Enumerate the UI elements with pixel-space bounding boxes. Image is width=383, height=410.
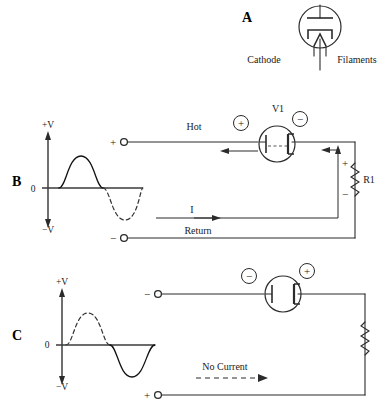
waveform-c-plus-v-label: +V [56,277,68,287]
no-current-label-c: No Current [202,361,247,372]
section-c-group: C +V −V 0 − + [12,264,369,402]
section-b-group: B +V −V 0 + − Hot [12,103,375,244]
circuit-b: + − Hot Return V1 + [110,103,375,244]
resistor-ref-b: R1 [363,174,375,185]
electron-flow-arrow-b [220,148,229,154]
input-bottom-sign-b: − [110,232,116,244]
waveform-b-y-axis-arrow-up [45,131,51,140]
input-terminal-bottom-b[interactable] [121,235,128,242]
waveform-b-plus-v-label: +V [42,120,54,130]
waveform-b-positive-half [59,156,103,188]
waveform-c-zero-label: 0 [45,340,50,350]
waveform-c-y-axis-arrow-up [59,288,65,297]
waveform-b-zero-label: 0 [31,184,36,194]
waveform-c-negative-half [110,345,155,377]
tube-left-sign-c: − [246,270,252,282]
current-i-arrow-b [212,215,221,221]
tube-left-sign-b: + [238,117,244,129]
resistor-top-sign-b: + [342,157,348,169]
input-top-sign-c: − [144,288,150,300]
tube-envelope-b-icon [259,126,295,162]
input-top-sign-b: + [110,136,116,148]
input-terminal-top-c[interactable] [155,291,162,298]
waveform-b-plot: +V −V 0 [31,120,143,235]
tube-right-sign-c: + [304,265,310,277]
section-b-label: B [12,174,21,189]
input-terminal-bottom-c[interactable] [155,392,162,399]
section-a-label: A [242,10,253,25]
input-terminal-top-b[interactable] [121,139,128,146]
waveform-c-plot: +V −V 0 [45,277,155,392]
vacuum-tube-rectifier-figure: A Cathode Filaments B +V −V 0 [0,0,383,410]
no-current-arrow-c [258,374,268,382]
tube-right-sign-b: − [297,113,303,125]
current-arrow-left-b [321,147,330,153]
circuit-c: − + − + No Current [144,264,369,402]
cathode-label-a: Cathode [247,54,281,65]
diagram-canvas: A Cathode Filaments B +V −V 0 [0,0,383,410]
hot-label-b: Hot [187,121,202,132]
waveform-c-positive-half [66,313,110,345]
input-bottom-sign-c: + [144,389,150,401]
section-c-label: C [12,328,22,343]
current-label-b: I [190,204,193,215]
waveform-b-negative-half [103,188,143,220]
return-label-b: Return [184,225,211,236]
filaments-label-a: Filaments [337,54,377,65]
resistor-bottom-sign-b: − [342,188,348,200]
tube-ref-b: V1 [272,103,284,114]
section-a-group: A Cathode Filaments [242,5,377,70]
